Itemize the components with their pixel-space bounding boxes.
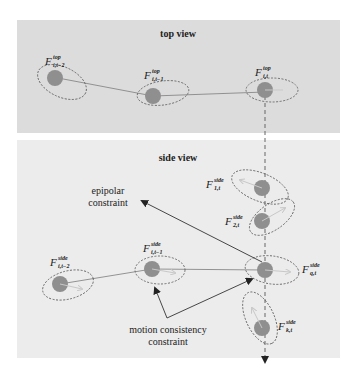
svg-text:top: top: [152, 68, 160, 74]
svg-text:side: side: [57, 255, 68, 261]
epipolar-label-line1: epipolar: [92, 185, 125, 196]
label-side-k-t: F side k,t: [277, 319, 296, 333]
svg-text:F: F: [143, 69, 151, 81]
top-view-title: top view: [160, 28, 197, 39]
label-side-q-t: F side q,t: [301, 262, 320, 276]
label-top-i-t-1: F top i,t−1: [143, 68, 163, 82]
svg-text:F: F: [49, 256, 57, 268]
svg-text:side: side: [309, 262, 320, 268]
motion-label-line1: motion consistency: [129, 324, 207, 335]
top-node-i-t-1: [136, 77, 191, 108]
side-node-i-t-1: [135, 256, 185, 284]
side-node-i-t-2: [39, 265, 96, 306]
svg-text:top: top: [53, 54, 61, 60]
node-dot: [47, 70, 63, 86]
uncertainty-ellipse: [136, 77, 191, 108]
top-node-i-t: [246, 78, 298, 102]
svg-text:side: side: [285, 319, 296, 325]
diagram-canvas: top view side view F top i,t−2 F top i,t…: [0, 0, 356, 373]
svg-text:2,t: 2,t: [232, 222, 240, 228]
motion-label-line2: constraint: [148, 336, 188, 347]
uncertainty-ellipse: [235, 287, 284, 350]
svg-text:side: side: [232, 214, 243, 220]
svg-text:i,t−1: i,t−1: [152, 76, 163, 82]
svg-text:i,t: i,t: [263, 73, 268, 79]
svg-text:i,t−1: i,t−1: [151, 249, 162, 255]
svg-text:F: F: [277, 320, 285, 332]
svg-text:i,t−2: i,t−2: [53, 62, 64, 68]
svg-text:F: F: [224, 215, 232, 227]
uncertainty-ellipse: [39, 265, 96, 306]
node-dot: [145, 88, 161, 104]
label-top-i-t-2: F top i,t−2: [44, 54, 64, 68]
svg-text:i,t−2: i,t−2: [58, 263, 69, 269]
svg-text:1,t: 1,t: [214, 185, 221, 191]
label-side-i-t-1: F side i,t−1: [142, 241, 162, 255]
svg-text:F: F: [254, 66, 262, 78]
svg-text:side: side: [150, 241, 161, 247]
svg-text:k,t: k,t: [286, 327, 293, 333]
side-node-k-t: [235, 287, 284, 350]
label-top-i-t: F top i,t: [254, 65, 271, 79]
label-side-i-t-2: F side i,t−2: [49, 255, 69, 269]
side-view-title: side view: [159, 152, 198, 163]
svg-text:F: F: [142, 242, 150, 254]
motion-arrow-to-prev: [155, 288, 167, 318]
svg-text:side: side: [213, 177, 224, 183]
svg-text:F: F: [44, 55, 52, 67]
epipolar-label-line2: constraint: [88, 197, 128, 208]
motion-arrow-to-current: [167, 279, 252, 318]
svg-text:top: top: [263, 65, 271, 71]
label-side-1-t: F side 1,t: [205, 177, 224, 191]
label-side-2-t: F side 2,t: [224, 214, 243, 228]
svg-text:q,t: q,t: [310, 270, 317, 276]
svg-text:F: F: [301, 263, 309, 275]
epipolar-line-arrowhead: [261, 356, 269, 364]
side-node-1-t: [227, 163, 293, 211]
svg-text:F: F: [205, 178, 213, 190]
